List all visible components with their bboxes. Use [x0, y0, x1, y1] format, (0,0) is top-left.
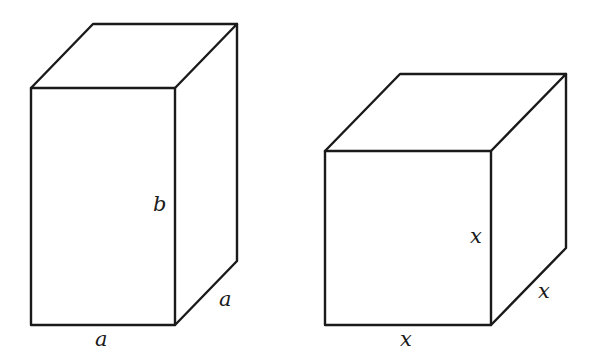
- cube-top-face: [325, 74, 566, 151]
- cube: x x x: [325, 74, 566, 351]
- prism-width-label: a: [95, 327, 108, 351]
- cube-height-label: x: [470, 224, 482, 248]
- prism-height-label: b: [153, 192, 166, 216]
- cube-depth-label: x: [538, 279, 550, 303]
- cube-width-label: x: [400, 327, 412, 351]
- prism-depth-label: a: [219, 287, 232, 311]
- prism-side-face: [175, 24, 237, 325]
- prism-top-face: [31, 24, 237, 88]
- diagram-canvas: b a a x x x: [0, 0, 591, 362]
- rectangular-prism: b a a: [31, 24, 237, 351]
- cube-front-face: [325, 151, 491, 325]
